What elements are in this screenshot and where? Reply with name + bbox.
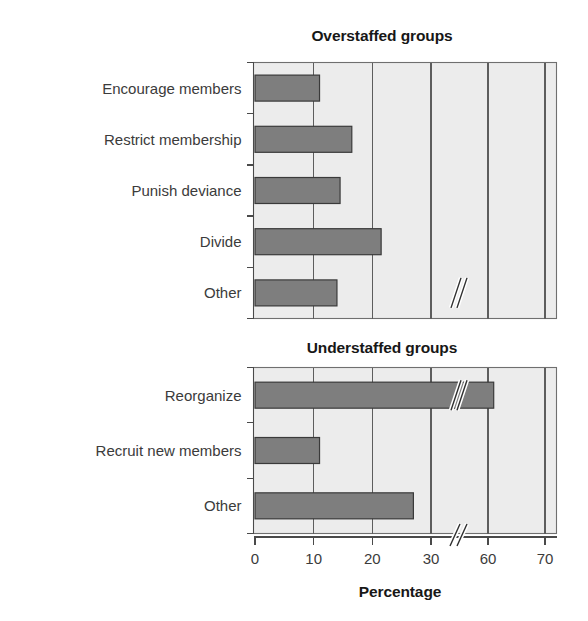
category-label: Recruit new members <box>96 442 242 459</box>
category-labels-understaffed: ReorganizeRecruit new membersOther <box>96 387 242 515</box>
panel-title-overstaffed: Overstaffed groups <box>311 27 452 44</box>
x-tick-label: 20 <box>364 550 381 567</box>
x-axis-title: Percentage <box>359 583 442 600</box>
bar <box>255 280 337 306</box>
category-label: Encourage members <box>102 80 241 97</box>
chart-canvas: Overstaffed groups Encourage membersRest… <box>0 0 588 621</box>
category-label: Divide <box>200 233 242 250</box>
category-label: Other <box>204 497 242 514</box>
category-labels-overstaffed: Encourage membersRestrict membershipPuni… <box>102 80 241 302</box>
category-axis-understaffed <box>247 368 254 534</box>
bar <box>255 438 320 464</box>
x-tick-label: 60 <box>480 550 497 567</box>
panel-overstaffed: Overstaffed groups Encourage membersRest… <box>102 27 556 319</box>
bar <box>255 75 320 101</box>
x-tick-label: 70 <box>537 550 554 567</box>
panel-understaffed: Understaffed groups ReorganizeRecruit ne… <box>96 339 557 534</box>
bar <box>255 126 352 152</box>
category-label: Restrict membership <box>104 131 242 148</box>
x-tick-label: 30 <box>423 550 440 567</box>
x-tick-label: 0 <box>251 550 259 567</box>
figure-container: Overstaffed groups Encourage membersRest… <box>0 0 588 621</box>
bar <box>255 229 381 255</box>
x-tick-labels: 01020306070 <box>251 550 554 567</box>
x-tick-label: 10 <box>305 550 322 567</box>
category-label: Reorganize <box>165 387 242 404</box>
bar <box>255 178 340 204</box>
category-axis-overstaffed <box>247 63 254 319</box>
panel-title-understaffed: Understaffed groups <box>307 339 458 356</box>
category-label: Punish deviance <box>131 182 241 199</box>
bar <box>255 493 413 519</box>
category-label: Other <box>204 284 242 301</box>
